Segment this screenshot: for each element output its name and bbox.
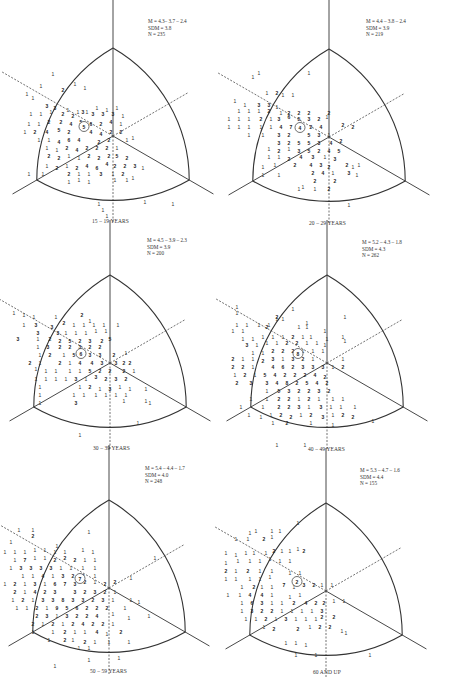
svg-text:4: 4 [76, 147, 79, 153]
svg-text:1: 1 [32, 573, 35, 579]
svg-text:1: 1 [235, 536, 238, 542]
svg-text:8: 8 [286, 380, 289, 386]
svg-text:1: 1 [276, 104, 279, 110]
svg-text:1: 1 [248, 116, 251, 122]
svg-text:1: 1 [295, 652, 298, 658]
svg-text:5: 5 [338, 148, 341, 154]
svg-text:1: 1 [22, 573, 25, 579]
svg-text:4: 4 [100, 131, 103, 137]
svg-text:4: 4 [46, 129, 49, 135]
svg-text:4: 4 [42, 573, 45, 579]
svg-text:1: 1 [112, 621, 115, 627]
svg-text:1: 1 [245, 616, 248, 622]
svg-text:4: 4 [330, 140, 333, 146]
data-points: 1111211332111113311111312252325132232212… [13, 310, 152, 438]
svg-text:5: 5 [264, 372, 267, 378]
svg-text:1: 1 [92, 549, 95, 555]
svg-text:2: 2 [303, 548, 306, 554]
svg-text:2: 2 [328, 388, 331, 394]
svg-text:2: 2 [106, 605, 109, 611]
svg-text:1: 1 [332, 412, 335, 418]
svg-text:1: 1 [282, 334, 285, 340]
svg-text:1: 1 [67, 107, 70, 113]
svg-text:6: 6 [76, 605, 79, 611]
svg-text:1: 1 [50, 109, 53, 115]
svg-text:3: 3 [52, 597, 55, 603]
svg-text:1: 1 [372, 418, 375, 424]
svg-text:1: 1 [83, 392, 86, 398]
svg-text:1: 1 [342, 356, 345, 362]
svg-text:2: 2 [108, 137, 111, 143]
svg-text:1: 1 [344, 338, 347, 344]
svg-text:1: 1 [56, 147, 59, 153]
svg-text:2: 2 [352, 414, 355, 420]
svg-text:2: 2 [340, 138, 343, 144]
svg-text:2: 2 [278, 396, 281, 402]
svg-text:1: 1 [252, 74, 255, 80]
panel-caption: 30 – 39 YEARS [93, 445, 130, 451]
svg-text:1: 1 [225, 550, 228, 556]
svg-text:1: 1 [234, 98, 237, 104]
svg-text:2: 2 [63, 320, 66, 326]
svg-text:1: 1 [315, 652, 318, 658]
svg-text:1: 1 [262, 350, 265, 356]
svg-text:7: 7 [64, 581, 67, 587]
svg-text:1: 1 [14, 549, 17, 555]
svg-text:1: 1 [102, 207, 105, 213]
svg-text:2: 2 [68, 171, 71, 177]
svg-text:1: 1 [234, 372, 237, 378]
svg-text:1: 1 [299, 592, 302, 598]
svg-text:1: 1 [39, 360, 42, 366]
svg-text:1: 1 [37, 344, 40, 350]
svg-text:3: 3 [266, 380, 269, 386]
svg-text:1: 1 [354, 404, 357, 410]
svg-text:2: 2 [59, 360, 62, 366]
svg-text:3: 3 [51, 324, 54, 330]
svg-text:2: 2 [114, 163, 117, 169]
svg-text:4: 4 [310, 162, 313, 168]
svg-text:2: 2 [123, 368, 126, 374]
svg-text:1: 1 [309, 624, 312, 630]
svg-text:1: 1 [28, 171, 31, 177]
svg-text:3: 3 [320, 404, 323, 410]
svg-text:2: 2 [72, 113, 75, 119]
svg-text:2: 2 [310, 124, 313, 130]
svg-text:1: 1 [352, 164, 355, 170]
ternary-plot: 1121111111111111711222111333311111141322… [0, 458, 225, 668]
mean-marker: 4 [295, 123, 305, 133]
svg-text:2: 2 [263, 536, 266, 542]
svg-text:1: 1 [46, 605, 49, 611]
svg-text:2: 2 [49, 352, 52, 358]
svg-text:1: 1 [254, 372, 257, 378]
svg-text:1: 1 [133, 368, 136, 374]
svg-text:1: 1 [4, 581, 7, 587]
svg-text:2: 2 [124, 163, 127, 169]
svg-text:2: 2 [125, 376, 128, 382]
svg-text:3: 3 [75, 400, 78, 406]
svg-text:1: 1 [23, 312, 26, 318]
svg-text:1: 1 [225, 576, 228, 582]
svg-text:1: 1 [126, 177, 129, 183]
svg-text:3: 3 [112, 111, 115, 117]
svg-text:1: 1 [88, 179, 91, 185]
svg-text:6: 6 [282, 364, 285, 370]
svg-text:1: 1 [248, 412, 251, 418]
svg-text:2: 2 [342, 364, 345, 370]
svg-text:1: 1 [332, 364, 335, 370]
svg-text:2: 2 [108, 153, 111, 159]
svg-text:3: 3 [74, 589, 77, 595]
svg-text:2: 2 [32, 621, 35, 627]
stat-mean: M = 4.4 – 3.8 – 2.4 [366, 18, 406, 25]
svg-text:2: 2 [105, 376, 108, 382]
svg-text:1: 1 [263, 624, 266, 630]
svg-text:4: 4 [322, 170, 325, 176]
svg-text:1: 1 [321, 582, 324, 588]
svg-text:1: 1 [242, 356, 245, 362]
svg-text:1: 1 [248, 132, 251, 138]
svg-text:2: 2 [296, 340, 299, 346]
svg-text:1: 1 [315, 616, 318, 622]
svg-text:1: 1 [46, 163, 49, 169]
svg-text:2: 2 [333, 614, 336, 620]
svg-text:1: 1 [40, 83, 43, 89]
svg-text:1: 1 [54, 549, 57, 555]
